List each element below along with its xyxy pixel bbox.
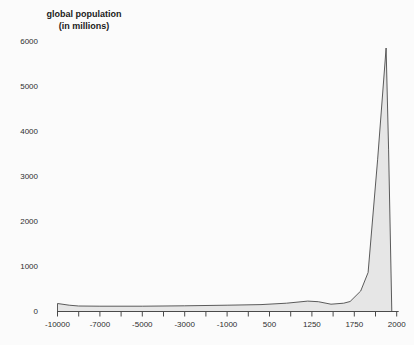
x-tick-label: -7000 [90, 320, 111, 329]
x-tick-label: -1000 [217, 320, 238, 329]
x-tick-label: -3000 [174, 320, 195, 329]
x-tick-label: -5000 [132, 320, 153, 329]
y-tick-label: 6000 [20, 37, 38, 46]
x-tick-label: 1250 [303, 320, 321, 329]
y-tick-label: 5000 [20, 82, 38, 91]
y-tick-label: 2000 [20, 217, 38, 226]
chart-title: global population [47, 9, 122, 19]
population-chart-svg: global population (in millions) -10000-7… [0, 0, 414, 345]
y-tick-label: 3000 [20, 172, 38, 181]
x-tick-label: 500 [263, 320, 277, 329]
x-tick-label: -10000 [45, 320, 70, 329]
y-tick-label: 1000 [20, 262, 38, 271]
y-tick-label: 4000 [20, 127, 38, 136]
x-tick-label: 2000 [388, 320, 406, 329]
x-tick-label: 1750 [345, 320, 363, 329]
y-tick-label: 0 [34, 307, 39, 316]
screenshot-root: { "header": { "title_line1": "global pop… [0, 0, 414, 345]
chart-subtitle: (in millions) [59, 21, 110, 31]
population-area [58, 48, 392, 312]
chart-canvas: global population (in millions) -10000-7… [0, 0, 414, 345]
plot-area: -10000-7000-5000-3000-100050012501750200… [20, 37, 406, 328]
